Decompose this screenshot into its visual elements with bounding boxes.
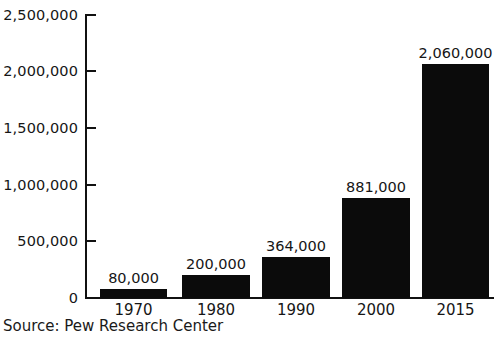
bar-value-1970: 80,000 bbox=[88, 270, 179, 286]
y-axis-label-0: 0 bbox=[0, 290, 78, 306]
y-axis-line bbox=[85, 14, 87, 299]
y-tick-mark-1000000 bbox=[87, 184, 96, 186]
y-axis-label-2500000: 2,500,000 bbox=[0, 7, 78, 23]
x-axis-label-1990: 1990 bbox=[255, 301, 337, 319]
bar-value-2015: 2,060,000 bbox=[405, 45, 494, 61]
y-axis-label-1000000: 1,000,000 bbox=[0, 177, 78, 193]
bar-1970[interactable] bbox=[100, 289, 167, 298]
y-tick-mark-2500000 bbox=[87, 14, 96, 16]
plot-area: 2,500,000 2,000,000 1,500,000 1,000,000 … bbox=[0, 0, 494, 312]
bar-2000[interactable] bbox=[342, 198, 410, 298]
bar-value-1990: 364,000 bbox=[250, 238, 342, 254]
bar-1990[interactable] bbox=[262, 257, 330, 298]
y-axis-label-2000000: 2,000,000 bbox=[0, 63, 78, 79]
source-caption: Source: Pew Research Center bbox=[3, 317, 223, 335]
bar-value-2000: 881,000 bbox=[330, 179, 422, 195]
y-axis-label-500000: 500,000 bbox=[0, 233, 78, 249]
y-tick-mark-500000 bbox=[87, 240, 96, 242]
y-tick-mark-0 bbox=[87, 297, 96, 299]
y-tick-mark-2000000 bbox=[87, 70, 96, 72]
bar-chart-figure: 2,500,000 2,000,000 1,500,000 1,000,000 … bbox=[0, 0, 494, 338]
bar-1980[interactable] bbox=[182, 275, 250, 298]
bar-2015[interactable] bbox=[422, 64, 489, 298]
x-axis-label-2000: 2000 bbox=[335, 301, 417, 319]
y-axis-label-1500000: 1,500,000 bbox=[0, 120, 78, 136]
x-axis-label-2015: 2015 bbox=[415, 301, 494, 319]
bar-value-1980: 200,000 bbox=[170, 256, 262, 272]
y-tick-mark-1500000 bbox=[87, 127, 96, 129]
